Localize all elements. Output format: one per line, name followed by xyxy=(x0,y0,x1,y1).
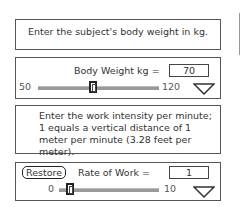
work-rate-instruction-text: Enter the work intensity per minute; 1 e… xyxy=(39,110,219,158)
work-rate-max-label: 10 xyxy=(164,183,176,194)
body-weight-max-label: 120 xyxy=(162,81,180,92)
work-rate-slider-thumb[interactable] xyxy=(66,183,74,195)
work-rate-slider-track[interactable] xyxy=(59,188,159,192)
work-rate-instruction-panel: Enter the work intensity per minute; 1 e… xyxy=(15,105,221,154)
body-weight-instruction-text: Enter the subject's body weight in kg. xyxy=(16,26,220,38)
work-rate-input[interactable]: 1 xyxy=(169,166,209,179)
body-weight-input[interactable]: 70 xyxy=(169,64,209,77)
work-rate-min-label: 0 xyxy=(48,183,54,194)
restore-button[interactable]: Restore xyxy=(22,166,66,179)
body-weight-instruction-panel: Enter the subject's body weight in kg. xyxy=(15,19,221,50)
work-rate-control-panel: Restore Rate of Work = 1 0 10 xyxy=(15,162,221,201)
body-weight-label: Body Weight kg = xyxy=(74,65,160,76)
work-rate-label: Rate of Work = xyxy=(78,167,150,178)
body-weight-control-panel: Body Weight kg = 70 50 120 xyxy=(15,57,221,99)
body-weight-min-label: 50 xyxy=(19,81,31,92)
side-panel-edge xyxy=(239,13,241,55)
body-weight-slider-track[interactable] xyxy=(38,86,159,90)
body-weight-slider-thumb[interactable] xyxy=(89,81,97,93)
